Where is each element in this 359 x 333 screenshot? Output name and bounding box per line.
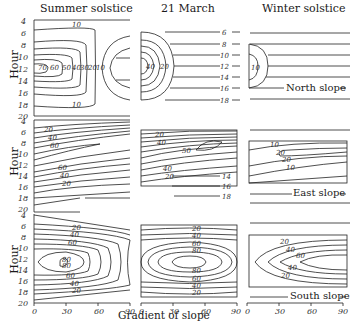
svg-text:20: 20 xyxy=(43,126,53,134)
panel-east-summer: 204060 604020 xyxy=(34,120,130,212)
svg-text:10: 10 xyxy=(72,101,81,109)
svg-text:10: 10 xyxy=(270,141,279,149)
svg-text:0: 0 xyxy=(245,307,250,316)
svg-text:6: 6 xyxy=(21,222,26,231)
svg-text:14: 14 xyxy=(18,77,28,86)
svg-text:40: 40 xyxy=(69,231,79,239)
svg-text:90: 90 xyxy=(125,307,135,316)
svg-text:8: 8 xyxy=(222,41,227,49)
svg-text:18: 18 xyxy=(18,101,28,110)
svg-text:16: 16 xyxy=(18,183,28,192)
svg-text:20: 20 xyxy=(191,289,201,297)
svg-text:12: 12 xyxy=(220,63,229,71)
svg-text:20: 20 xyxy=(61,180,71,188)
svg-text:20: 20 xyxy=(164,173,174,181)
svg-text:20: 20 xyxy=(154,131,164,139)
svg-text:4: 4 xyxy=(20,117,26,126)
svg-text:90: 90 xyxy=(338,307,348,316)
svg-text:60: 60 xyxy=(58,164,67,172)
svg-text:40: 40 xyxy=(47,134,57,142)
svg-text:6: 6 xyxy=(21,128,26,137)
svg-text:12: 12 xyxy=(18,65,28,74)
svg-text:40: 40 xyxy=(145,63,155,71)
svg-text:16: 16 xyxy=(222,183,231,191)
svg-text:40: 40 xyxy=(285,246,295,254)
svg-text:60: 60 xyxy=(94,307,104,316)
y-ticks-east: 4 6 8 10 12 14 16 18 20 xyxy=(17,117,28,214)
svg-text:20: 20 xyxy=(279,238,289,246)
row-label-north: North slope xyxy=(286,82,346,93)
svg-text:60: 60 xyxy=(307,307,317,316)
svg-text:14: 14 xyxy=(222,173,231,181)
svg-text:6: 6 xyxy=(21,29,26,38)
svg-text:8: 8 xyxy=(21,233,26,242)
svg-text:18: 18 xyxy=(18,288,28,297)
svg-text:60: 60 xyxy=(296,252,305,260)
svg-text:16: 16 xyxy=(220,85,229,93)
panel-east-winter: 1020 2010 East slope xyxy=(249,130,350,203)
svg-text:10: 10 xyxy=(220,52,229,60)
svg-text:18: 18 xyxy=(220,97,229,105)
svg-text:30: 30 xyxy=(62,307,72,316)
svg-text:60: 60 xyxy=(68,239,77,247)
svg-text:14: 14 xyxy=(18,172,28,181)
svg-text:0: 0 xyxy=(32,307,37,316)
svg-text:20: 20 xyxy=(17,299,28,308)
svg-text:30: 30 xyxy=(169,307,179,316)
svg-text:12: 12 xyxy=(18,161,28,170)
svg-text:50: 50 xyxy=(62,64,71,72)
panel-south-march: 204060 8080 604020 xyxy=(141,225,237,297)
svg-text:40: 40 xyxy=(162,165,172,173)
svg-text:60: 60 xyxy=(50,142,59,150)
svg-text:4: 4 xyxy=(20,211,26,220)
svg-text:40: 40 xyxy=(287,264,297,272)
svg-text:18: 18 xyxy=(222,193,231,201)
panel-north-winter: 10 North slope xyxy=(249,33,350,99)
svg-text:10: 10 xyxy=(18,53,28,62)
svg-text:90: 90 xyxy=(231,307,241,316)
svg-text:14: 14 xyxy=(18,266,28,275)
svg-text:16: 16 xyxy=(18,277,28,286)
svg-text:20: 20 xyxy=(281,156,291,164)
y-ticks-north: 4 6 8 10 12 14 16 18 20 xyxy=(17,17,28,121)
svg-text:10: 10 xyxy=(18,150,28,159)
x-tick-labels: 0 30 60 90 0 30 60 90 0 30 60 90 xyxy=(32,307,348,316)
svg-text:60: 60 xyxy=(201,307,211,316)
panel-south-winter: 204060 4020 South slope xyxy=(249,223,350,301)
x-axis-summer xyxy=(34,303,130,306)
panel-north-march: 4020 6 8 10 12 14 16 18 xyxy=(141,29,240,105)
svg-text:8: 8 xyxy=(21,41,26,50)
svg-text:8: 8 xyxy=(21,139,26,148)
panel-north-summer: 10 10 7060 5040 302010 xyxy=(34,20,130,116)
svg-text:40: 40 xyxy=(59,172,69,180)
svg-text:60: 60 xyxy=(66,272,75,280)
svg-text:14: 14 xyxy=(220,74,229,82)
svg-text:80: 80 xyxy=(192,247,201,255)
svg-text:12: 12 xyxy=(18,255,28,264)
svg-text:20: 20 xyxy=(71,287,81,295)
panel-south-summer: 204060 8080 604020 xyxy=(34,214,130,303)
svg-text:30: 30 xyxy=(275,307,285,316)
svg-text:10: 10 xyxy=(251,64,260,72)
svg-text:10: 10 xyxy=(18,244,28,253)
svg-text:20: 20 xyxy=(159,63,169,71)
svg-text:10: 10 xyxy=(72,21,81,29)
svg-text:80: 80 xyxy=(192,267,201,275)
hour-line-labels: 6 8 10 12 14 16 18 xyxy=(220,29,229,105)
y-ticks-south: 4 6 8 10 12 14 16 18 20 xyxy=(17,211,28,308)
svg-text:50: 50 xyxy=(182,147,191,155)
svg-text:10: 10 xyxy=(286,164,295,172)
row-label-east: East slope xyxy=(293,187,345,198)
row-label-south: South slope xyxy=(290,290,350,301)
x-axis-march xyxy=(141,303,237,306)
svg-text:4: 4 xyxy=(20,17,26,26)
svg-text:10: 10 xyxy=(96,64,105,72)
svg-text:0: 0 xyxy=(139,307,144,316)
svg-text:6: 6 xyxy=(222,29,227,37)
svg-text:70: 70 xyxy=(38,64,47,72)
svg-text:60: 60 xyxy=(50,64,59,72)
svg-text:18: 18 xyxy=(18,194,28,203)
svg-text:40: 40 xyxy=(156,139,166,147)
svg-text:80: 80 xyxy=(62,262,71,270)
x-axis-winter xyxy=(247,303,343,306)
